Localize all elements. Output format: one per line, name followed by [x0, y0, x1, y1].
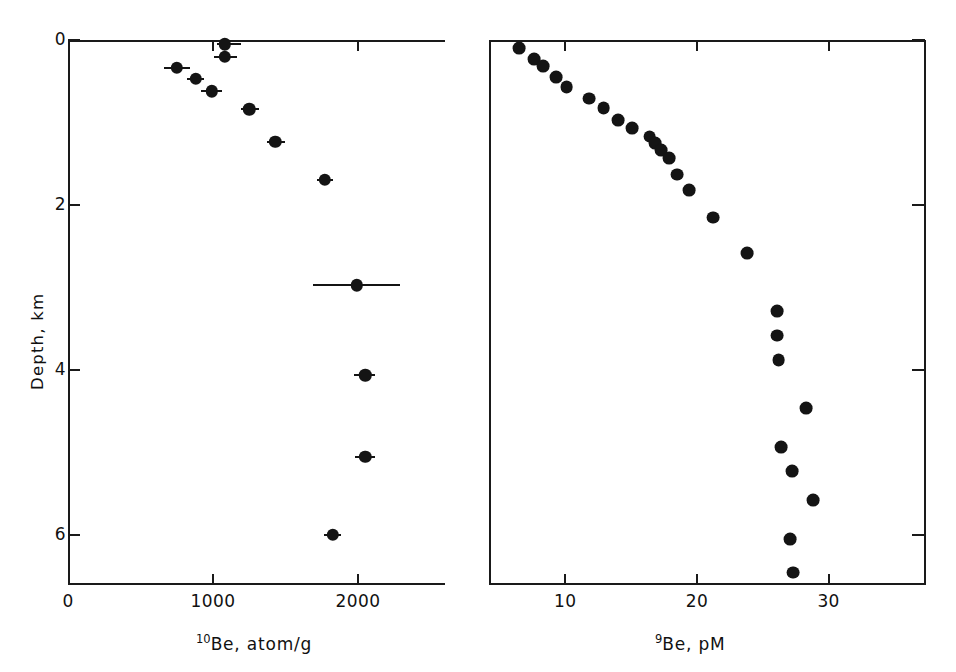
right-data-point — [772, 354, 785, 367]
left-data-point — [243, 103, 255, 115]
left-data-point — [359, 369, 371, 381]
right-data-point — [550, 71, 563, 84]
right-data-point — [597, 101, 610, 114]
right-data-point — [626, 122, 639, 135]
right-x-tick-top-30 — [828, 40, 830, 51]
right-x-tick-label-20: 20 — [686, 591, 708, 611]
right-x-tick-label-30: 30 — [817, 591, 839, 611]
right-data-point — [560, 81, 573, 94]
right-data-point — [741, 247, 754, 260]
right-panel-x-axis-title: 9Be, pM — [655, 632, 726, 654]
right-x-tick-20 — [696, 574, 698, 585]
left-data-point — [326, 528, 338, 540]
y-tick-4 — [68, 369, 80, 371]
right-data-point — [771, 304, 784, 317]
left-x-tick-top-1000 — [212, 40, 214, 51]
right-data-point — [683, 184, 696, 197]
left-x-tick-2000 — [357, 574, 359, 585]
left-x-tick-label-0: 0 — [62, 591, 73, 611]
right-data-point — [583, 92, 596, 105]
superscript: 9 — [655, 632, 662, 646]
right-data-point — [787, 566, 800, 579]
left-data-point — [205, 85, 217, 97]
left-x-tick-label-2000: 2000 — [336, 591, 381, 611]
left-panel — [68, 40, 445, 585]
y-tick-right-4 — [912, 369, 925, 371]
y-tick-right-0 — [912, 39, 925, 41]
right-data-point — [612, 114, 625, 127]
y-tick-2 — [68, 204, 80, 206]
left-panel-x-axis-title: 10Be, atom/g — [196, 632, 312, 654]
right-data-point — [663, 152, 676, 165]
right-data-point — [800, 402, 813, 415]
left-x-tick-1000 — [212, 574, 214, 585]
left-data-point — [171, 62, 183, 74]
right-data-point — [775, 441, 788, 454]
left-data-point — [218, 50, 230, 62]
right-x-tick-10 — [564, 574, 566, 585]
right-data-point — [537, 60, 550, 73]
right-data-point — [785, 465, 798, 478]
y-tick-label-0: 0 — [54, 29, 66, 49]
right-x-tick-top-10 — [564, 40, 566, 51]
y-axis-title: Depth, km — [28, 293, 47, 390]
right-data-point — [771, 329, 784, 342]
right-panel — [489, 40, 926, 585]
y-tick-right-2 — [912, 204, 925, 206]
right-data-point — [671, 168, 684, 181]
left-data-point — [189, 73, 201, 85]
right-x-tick-30 — [828, 574, 830, 585]
left-data-point — [318, 173, 330, 185]
left-data-point — [350, 279, 362, 291]
figure-root: 0246 Depth, km 010002000 102030 10Be, at… — [0, 0, 956, 672]
y-tick-right-6 — [912, 534, 925, 536]
left-panel-plot-area — [68, 40, 445, 585]
right-x-tick-top-20 — [696, 40, 698, 51]
right-panel-plot-area — [489, 40, 926, 585]
right-x-tick-label-10: 10 — [554, 591, 576, 611]
superscript: 10 — [196, 632, 211, 646]
right-data-point — [513, 42, 526, 55]
left-data-point — [359, 451, 371, 463]
y-tick-label-4: 4 — [54, 359, 66, 379]
y-tick-label-2: 2 — [54, 194, 66, 214]
left-x-tick-label-1000: 1000 — [191, 591, 236, 611]
left-data-point — [218, 38, 230, 50]
left-x-tick-top-2000 — [357, 40, 359, 51]
y-tick-0 — [68, 39, 80, 41]
right-data-point — [706, 211, 719, 224]
right-data-point — [784, 532, 797, 545]
y-tick-6 — [68, 534, 80, 536]
left-data-point — [269, 135, 281, 147]
y-tick-label-6: 6 — [54, 524, 66, 544]
right-data-point — [806, 494, 819, 507]
